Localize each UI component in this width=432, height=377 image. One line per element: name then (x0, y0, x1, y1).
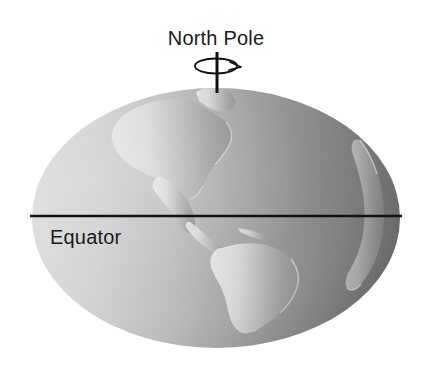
globe-sphere (32, 88, 400, 348)
north-pole-label: North Pole (168, 27, 265, 49)
equator-label: Equator (50, 226, 122, 248)
continents-group (32, 88, 400, 348)
globe-illustration: North Pole Equator (0, 0, 432, 377)
earth-globe-diagram: North Pole Equator (0, 0, 432, 377)
